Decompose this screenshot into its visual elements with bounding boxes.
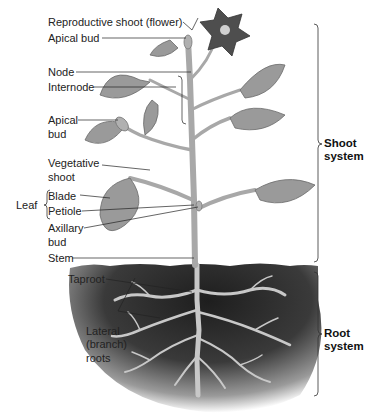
label-shoot-system-1: Shoot xyxy=(324,137,357,150)
label-lateral-roots-2: (branch) xyxy=(86,338,127,350)
label-lateral-roots-1: Lateral xyxy=(86,325,120,337)
label-reproductive-shoot: Reproductive shoot (flower) xyxy=(48,16,183,28)
stem-drawing xyxy=(118,40,255,265)
label-leaf: Leaf xyxy=(16,199,37,211)
plant-anatomy-diagram: Reproductive shoot (flower) Apical bud N… xyxy=(0,0,377,413)
flower-drawing xyxy=(200,8,250,56)
label-internode: Internode xyxy=(48,81,94,93)
label-node: Node xyxy=(48,66,74,78)
label-vegetative-shoot-1: Vegetative xyxy=(48,157,99,169)
label-root-system-1: Root xyxy=(324,327,350,340)
label-apical-bud-top: Apical bud xyxy=(48,32,99,44)
label-shoot-system-2: system xyxy=(324,150,364,163)
label-axillary-bud-1: Axillary xyxy=(48,222,83,234)
label-petiole: Petiole xyxy=(48,205,82,217)
label-apical-bud-side-2: bud xyxy=(48,128,66,140)
label-blade: Blade xyxy=(48,190,76,202)
label-lateral-roots-3: roots xyxy=(86,352,110,364)
label-root-system-2: system xyxy=(324,340,364,353)
label-axillary-bud-2: bud xyxy=(48,236,66,248)
label-stem: Stem xyxy=(48,252,74,264)
label-taproot: Taproot xyxy=(68,273,105,285)
label-vegetative-shoot-2: shoot xyxy=(48,171,75,183)
label-apical-bud-side-1: Apical xyxy=(48,114,78,126)
